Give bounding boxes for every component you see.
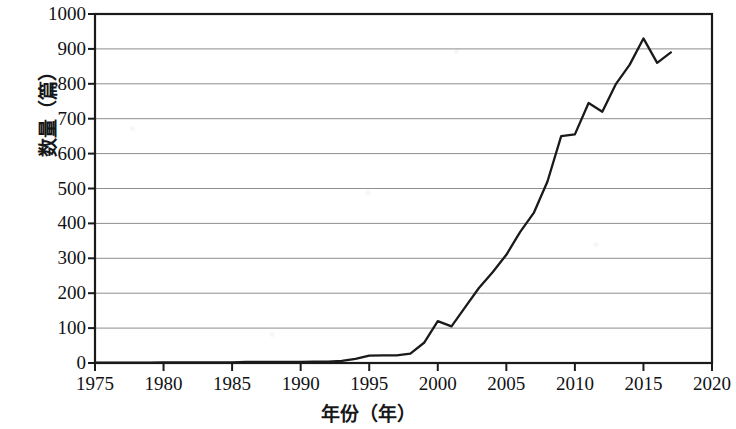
- x-tick-label: 1990: [266, 373, 336, 395]
- x-axis-title: 年份（年）: [0, 399, 736, 426]
- x-tick-label: 1980: [129, 373, 199, 395]
- x-tick-label: 2005: [471, 373, 541, 395]
- x-tick-label: 1975: [60, 373, 130, 395]
- x-tick-label: 2000: [403, 373, 473, 395]
- x-tick-label: 1985: [197, 373, 267, 395]
- line-chart: 数量（篇） 01002003004005006007008009001000 1…: [0, 0, 736, 429]
- x-tick-label: 1995: [334, 373, 404, 395]
- plot-area: [0, 0, 736, 429]
- x-axis-tick-marks: [95, 363, 712, 371]
- x-tick-label: 2020: [677, 373, 736, 395]
- x-tick-label: 2015: [608, 373, 678, 395]
- gridlines: [95, 49, 712, 328]
- x-tick-label: 2010: [540, 373, 610, 395]
- data-line-series-0: [95, 38, 671, 362]
